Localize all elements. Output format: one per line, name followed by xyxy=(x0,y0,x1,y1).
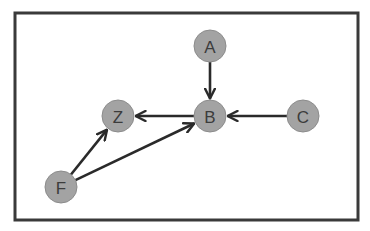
node-b: B xyxy=(194,100,226,132)
node-z: Z xyxy=(102,100,134,132)
node-c: C xyxy=(287,100,319,132)
node-c-label: C xyxy=(297,108,309,127)
node-z-label: Z xyxy=(113,108,123,127)
node-b-label: B xyxy=(204,108,215,127)
node-f-label: F xyxy=(56,179,66,198)
node-f: F xyxy=(45,171,77,203)
graph-diagram: A B C Z F xyxy=(0,0,370,231)
node-a-label: A xyxy=(204,38,216,57)
node-a: A xyxy=(194,30,226,62)
